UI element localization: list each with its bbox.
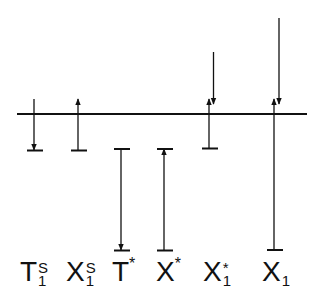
label-x1: X1 bbox=[262, 258, 293, 286]
label-t1s: TS1 bbox=[20, 258, 49, 286]
arrow-x1 bbox=[267, 18, 283, 250]
label-tstar: T* bbox=[112, 258, 135, 286]
label-x1star: X*1 bbox=[203, 258, 234, 286]
arrow-t1s bbox=[27, 99, 43, 151]
arrow-x1s bbox=[71, 99, 87, 151]
arrow-tstar bbox=[114, 149, 130, 251]
label-xstar: X* bbox=[156, 258, 181, 286]
arrow-xstar bbox=[157, 149, 173, 251]
label-x1s: XS1 bbox=[66, 258, 97, 286]
arrow-x1star bbox=[202, 52, 218, 149]
